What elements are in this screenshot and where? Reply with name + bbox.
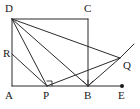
segment-DP: [12, 19, 47, 86]
point-label-a: A: [5, 90, 13, 101]
segment-DQ: [12, 19, 120, 58]
point-label-d: D: [5, 3, 13, 14]
geometry-figure: ABCDEPQR: [0, 0, 140, 109]
point-dot-e: [120, 84, 124, 88]
point-dot-group: [120, 84, 124, 88]
point-label-b: B: [84, 90, 91, 101]
point-label-e: E: [118, 90, 125, 101]
point-label-q: Q: [123, 60, 131, 71]
angle-mark-at-B: [83, 80, 93, 86]
point-label-p: P: [43, 90, 49, 101]
ray-beyond-Q: [120, 44, 134, 58]
segment-DB: [12, 19, 88, 86]
point-label-r: R: [3, 48, 10, 59]
segment-group: [12, 19, 134, 86]
point-label-c: C: [84, 3, 91, 14]
segment-RP: [12, 54, 47, 86]
